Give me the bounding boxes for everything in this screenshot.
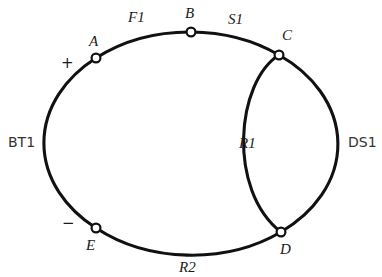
component-label-ds1: DS1: [348, 135, 377, 149]
node-C: [275, 51, 284, 60]
component-label-f1: F1: [128, 10, 145, 25]
node-E: [92, 224, 101, 233]
node-label-D: D: [280, 242, 291, 257]
diagram-canvas: A B C D E F1 S1 R1 R2 BT1 DS1 + −: [0, 0, 382, 277]
arc-r2-resistor: [96, 228, 281, 255]
node-D: [277, 228, 286, 237]
component-label-r2: R2: [179, 260, 196, 275]
arc-s1-switch: [191, 32, 279, 55]
node-label-C: C: [282, 28, 292, 43]
component-label-bt1: BT1: [8, 135, 35, 149]
arc-ds1-lamp: [279, 55, 338, 232]
arc-f1-fuse: [96, 32, 191, 58]
node-label-E: E: [86, 238, 95, 253]
polarity-minus-sign: −: [62, 216, 75, 231]
node-A: [92, 54, 101, 63]
component-label-r1: R1: [239, 136, 256, 151]
node-B: [187, 28, 196, 37]
circuit-diagram: [0, 0, 382, 277]
polarity-plus-sign: +: [61, 56, 74, 71]
component-label-s1: S1: [228, 12, 243, 27]
node-label-B: B: [185, 6, 194, 21]
arc-bt1-battery: [44, 58, 96, 228]
node-label-A: A: [89, 34, 98, 49]
